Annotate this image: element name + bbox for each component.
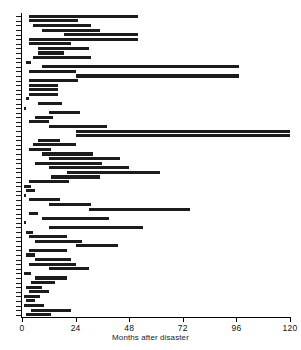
bar-row — [31, 309, 71, 312]
y-axis-tick — [16, 191, 21, 192]
y-axis-tick — [16, 76, 21, 77]
x-axis-tick-label: 96 — [221, 323, 251, 333]
bar-row — [26, 253, 35, 256]
y-axis-tick — [16, 278, 21, 279]
bar-row — [35, 258, 71, 261]
bar-row — [76, 244, 118, 247]
bar-row — [29, 88, 58, 91]
y-axis-tick — [16, 159, 21, 160]
y-axis-tick — [16, 122, 21, 123]
x-axis-tick-label: 120 — [275, 323, 301, 333]
bar-row — [33, 143, 75, 146]
bar-row — [42, 152, 93, 155]
y-axis-tick — [16, 21, 21, 22]
bar-row — [67, 171, 161, 174]
bar-row — [49, 267, 89, 270]
y-axis-tick — [16, 273, 21, 274]
y-axis-tick — [16, 81, 21, 82]
bar-row — [26, 286, 42, 289]
bar-row — [24, 304, 44, 307]
bar-row — [24, 107, 26, 110]
bar-row — [26, 299, 35, 302]
y-axis-tick — [16, 35, 21, 36]
bar-row — [76, 134, 290, 137]
x-axis-label: Months after disaster — [0, 333, 301, 342]
bar-row — [38, 51, 65, 54]
bar-row — [24, 221, 26, 224]
y-axis-tick — [16, 44, 21, 45]
y-axis-tick — [16, 168, 21, 169]
y-axis-tick — [16, 186, 21, 187]
bar-row — [24, 194, 26, 197]
y-axis-tick — [16, 218, 21, 219]
x-axis-tick — [290, 318, 291, 322]
y-axis-tick — [16, 117, 21, 118]
y-axis-tick — [16, 292, 21, 293]
x-axis-line — [21, 317, 291, 318]
bar-row — [35, 162, 102, 165]
y-axis-tick — [16, 16, 21, 17]
bar-row — [29, 42, 71, 45]
bar-row — [24, 185, 31, 188]
y-axis-tick — [16, 48, 21, 49]
y-axis-tick — [16, 296, 21, 297]
y-axis-tick — [16, 246, 21, 247]
y-axis-tick — [16, 136, 21, 137]
x-axis-tick-label: 72 — [168, 323, 198, 333]
y-axis-tick — [16, 200, 21, 201]
bar-row — [29, 38, 138, 41]
bar-row — [26, 97, 28, 100]
y-axis-tick — [16, 214, 21, 215]
bar-row — [29, 249, 67, 252]
y-axis-tick — [16, 205, 21, 206]
y-axis-tick — [16, 315, 21, 316]
y-axis-tick — [16, 301, 21, 302]
x-axis-tick-label: 48 — [114, 323, 144, 333]
y-axis-tick — [16, 30, 21, 31]
y-axis-tick — [16, 94, 21, 95]
y-axis-tick — [16, 39, 21, 40]
bar-row — [29, 84, 58, 87]
bar-row — [29, 70, 76, 73]
y-axis-tick — [16, 241, 21, 242]
x-axis-tick — [236, 318, 237, 322]
bar-row — [33, 56, 91, 59]
bar-row — [29, 79, 78, 82]
bar-row — [29, 212, 38, 215]
y-axis-tick — [16, 172, 21, 173]
y-axis-tick — [16, 113, 21, 114]
y-axis-tick — [16, 67, 21, 68]
y-axis-tick — [16, 227, 21, 228]
y-axis-tick — [16, 108, 21, 109]
bar-row — [29, 93, 58, 96]
y-axis-tick — [16, 25, 21, 26]
y-axis-tick — [16, 131, 21, 132]
bar-row — [89, 208, 190, 211]
bar-row — [42, 217, 109, 220]
y-axis-tick — [16, 223, 21, 224]
bar-row — [29, 290, 49, 293]
bar-row — [24, 272, 31, 275]
chart-title — [0, 0, 301, 6]
bar-row — [29, 235, 67, 238]
bar-row — [49, 226, 143, 229]
y-axis-tick — [16, 154, 21, 155]
x-axis-tick — [22, 318, 23, 322]
bar-row — [42, 29, 100, 32]
bar-row — [42, 65, 239, 68]
y-axis-tick — [16, 140, 21, 141]
y-axis-tick — [16, 269, 21, 270]
bar-row — [29, 180, 69, 183]
bar-row — [29, 263, 76, 266]
bar-row — [29, 148, 51, 151]
bar-row — [26, 313, 51, 316]
bar-row — [38, 102, 63, 105]
x-axis-tick-label: 24 — [61, 323, 91, 333]
y-axis-tick — [16, 62, 21, 63]
bar-row — [49, 111, 80, 114]
bar-row — [64, 33, 138, 36]
y-axis-tick — [16, 209, 21, 210]
bar-row — [26, 231, 33, 234]
y-axis-tick — [16, 145, 21, 146]
bar-row — [24, 295, 40, 298]
